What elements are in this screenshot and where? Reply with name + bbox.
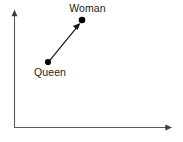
vector-arrow-queen-to-woman <box>50 23 80 60</box>
vector-arrow-head-icon <box>73 23 81 30</box>
data-point-woman <box>79 17 86 24</box>
data-point-label-woman: Woman <box>0 2 179 14</box>
x-axis-arrowhead-icon <box>165 125 172 131</box>
word-vector-diagram: Woman Queen <box>0 0 183 142</box>
data-point-queen <box>45 59 51 65</box>
vector-arrow-shaft <box>50 27 77 60</box>
x-axis <box>14 125 172 131</box>
data-point-label-queen: Queen <box>2 66 98 78</box>
